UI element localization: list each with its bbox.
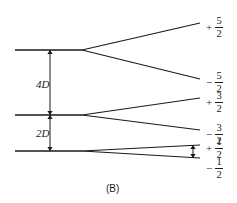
level-label-sign-5: − xyxy=(205,163,213,174)
fraction-denominator-0: 2 xyxy=(215,28,222,39)
fraction-numerator-2: 3 xyxy=(215,91,222,102)
arrow-small-split xyxy=(190,145,195,158)
level-label-2: +32 xyxy=(205,91,223,114)
diagram-canvas xyxy=(0,0,237,203)
level-label-0: +52 xyxy=(205,16,223,39)
fraction-numerator-5: 1 xyxy=(215,157,222,168)
level-label-sign-4: + xyxy=(205,143,213,154)
level-label-sign-2: + xyxy=(205,97,213,108)
level-label-fraction-2: 32 xyxy=(215,91,223,114)
split-branch-0 xyxy=(82,23,200,50)
energy-level-diagram: 4D2D+52−52+32−32+12−12(B) xyxy=(0,0,237,203)
split-branch-1 xyxy=(82,50,200,79)
level-label-sign-1: − xyxy=(205,77,213,88)
level-label-fraction-5: 12 xyxy=(215,157,223,180)
split-branch-5 xyxy=(82,151,200,158)
split-branch-2 xyxy=(82,98,200,115)
fraction-numerator-3: 3 xyxy=(215,123,222,134)
gap-label-4d: 4D xyxy=(36,78,49,90)
split-branch-4 xyxy=(82,145,200,151)
fraction-numerator-4: 1 xyxy=(215,137,222,148)
fraction-denominator-5: 2 xyxy=(215,169,222,180)
level-label-sign-0: + xyxy=(205,22,213,33)
figure-caption: (B) xyxy=(106,183,119,194)
level-label-5: −12 xyxy=(205,157,223,180)
split-branch-3 xyxy=(82,115,200,130)
gap-label-2d: 2D xyxy=(36,127,49,139)
level-label-fraction-0: 52 xyxy=(215,16,223,39)
fraction-denominator-2: 2 xyxy=(215,103,222,114)
fraction-numerator-1: 5 xyxy=(215,71,222,82)
fraction-numerator-0: 5 xyxy=(215,16,222,27)
